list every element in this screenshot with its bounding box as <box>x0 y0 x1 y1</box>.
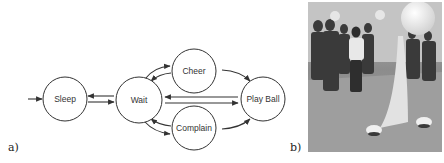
state-label-complain: Complain <box>176 123 212 133</box>
edge-wait-complain <box>145 122 170 134</box>
state-label-sleep: Sleep <box>54 94 76 104</box>
edge-complain-wait <box>151 119 171 126</box>
state-label-playball: Play Ball <box>246 94 279 104</box>
edge-cheer-wait <box>151 73 171 81</box>
state-node-playball: Play Ball <box>241 77 285 121</box>
state-label-wait: Wait <box>131 95 148 105</box>
state-label-cheer: Cheer <box>182 66 205 76</box>
state-node-complain: Complain <box>172 106 216 150</box>
photo-image <box>308 2 442 152</box>
state-machine-diagram: Sleep Wait Cheer Complain Play Ball <box>0 0 310 163</box>
panel-a-label: a) <box>8 141 19 154</box>
edge-complain-playball <box>222 119 250 129</box>
state-node-sleep: Sleep <box>43 77 87 121</box>
edge-cheer-playball <box>222 70 250 81</box>
state-node-wait: Wait <box>116 77 162 123</box>
photo-panel <box>308 2 442 152</box>
panel-b-label: b) <box>290 141 301 154</box>
state-node-cheer: Cheer <box>172 49 216 93</box>
